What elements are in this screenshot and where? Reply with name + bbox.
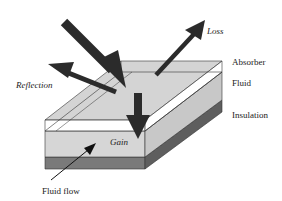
gain-label: Gain <box>110 137 128 147</box>
fluid-flow-label: Fluid flow <box>42 186 80 196</box>
insulation-front-face <box>45 157 145 169</box>
incoming-radiation-arrow <box>64 22 126 88</box>
insulation-label: Insulation <box>232 110 268 120</box>
loss-label: Loss <box>207 26 224 36</box>
reflection-label: Reflection <box>16 80 52 90</box>
fluid-label: Fluid <box>232 78 251 88</box>
absorber-label: Absorber <box>232 57 266 67</box>
solar-collector-diagram <box>0 0 282 201</box>
